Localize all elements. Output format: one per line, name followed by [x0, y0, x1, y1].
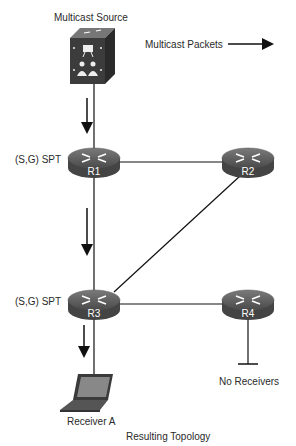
r4-label: R4 [233, 308, 263, 319]
laptop-icon [60, 374, 113, 412]
receiver-label: Receiver A [67, 416, 115, 427]
diagram-title: Resulting Topology [126, 431, 210, 442]
r1-annotation: (S,G) SPT [15, 154, 61, 165]
r2-label: R2 [233, 166, 263, 177]
link-r2-r3 [114, 176, 240, 292]
r1-label: R1 [79, 166, 109, 177]
r3-label: R3 [79, 308, 109, 319]
multicast-source-icon [70, 28, 115, 84]
r3-annotation: (S,G) SPT [15, 296, 61, 307]
links [94, 84, 258, 375]
no-receivers-label: No Receivers [219, 376, 279, 387]
multicast-source-label: Multicast Source [54, 12, 128, 23]
legend-label: Multicast Packets [145, 39, 223, 50]
